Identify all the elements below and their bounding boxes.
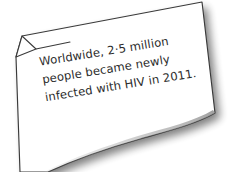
note-illustration: Worldwide, 2·5 million people became new… bbox=[0, 0, 234, 172]
